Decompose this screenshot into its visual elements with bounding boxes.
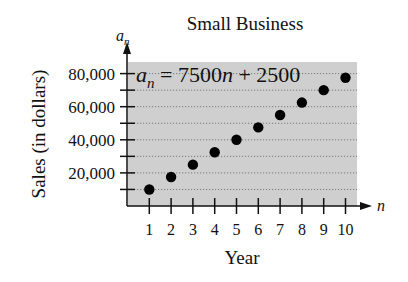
equation-lhs: a <box>136 62 147 87</box>
data-point <box>210 147 220 157</box>
data-point <box>231 135 241 145</box>
data-point <box>144 184 154 194</box>
x-tick-label: 8 <box>298 221 306 238</box>
data-point <box>188 159 198 169</box>
x-axis-label: Year <box>224 247 260 268</box>
x-tick-label: 9 <box>320 221 328 238</box>
x-tick-label: 1 <box>145 221 153 238</box>
scatter-chart: 80,00060,00040,00020,000 12345678910 Sma… <box>0 0 408 282</box>
y-tick-label: 20,000 <box>68 164 115 183</box>
x-tick-label: 6 <box>254 221 262 238</box>
x-tick-label: 10 <box>338 221 354 238</box>
chart-title: Small Business <box>187 13 304 34</box>
equation-label: an = 7500n + 2500 <box>136 62 300 91</box>
x-tick-label: 5 <box>233 221 241 238</box>
x-tick-label: 3 <box>189 221 197 238</box>
equation-rhs: = 7500n + 2500 <box>155 62 301 87</box>
y-axis-label: Sales (in dollars) <box>28 70 50 199</box>
x-tick-label: 2 <box>167 221 175 238</box>
data-point <box>275 110 285 120</box>
y-tick-label: 40,000 <box>68 131 115 150</box>
y-tick-label: 60,000 <box>68 98 115 117</box>
data-point <box>253 122 263 132</box>
data-point <box>297 97 307 107</box>
data-point <box>319 85 329 95</box>
y-axis-variable: an <box>116 27 130 47</box>
x-tick-label: 7 <box>276 221 284 238</box>
y-tick-label: 80,000 <box>68 65 115 84</box>
x-tick-label: 4 <box>211 221 219 238</box>
data-point <box>340 73 350 83</box>
x-axis-arrow-icon <box>360 202 372 210</box>
data-point <box>166 172 176 182</box>
x-axis-variable: n <box>377 197 385 214</box>
y-ticks: 80,00060,00040,00020,000 <box>68 65 135 190</box>
equation-subscript: n <box>147 75 155 91</box>
